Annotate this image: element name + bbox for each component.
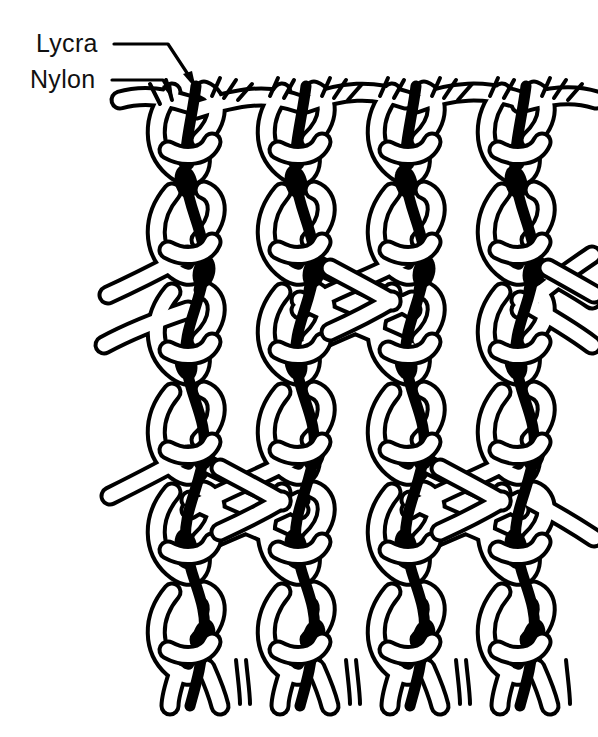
lycra-label: Lycra xyxy=(36,29,98,57)
nylon-label: Nylon xyxy=(30,65,95,93)
knitted-fabric-diagram: Lycra Nylon xyxy=(0,0,598,737)
fabric-structure-svg: Lycra Nylon xyxy=(0,0,598,737)
